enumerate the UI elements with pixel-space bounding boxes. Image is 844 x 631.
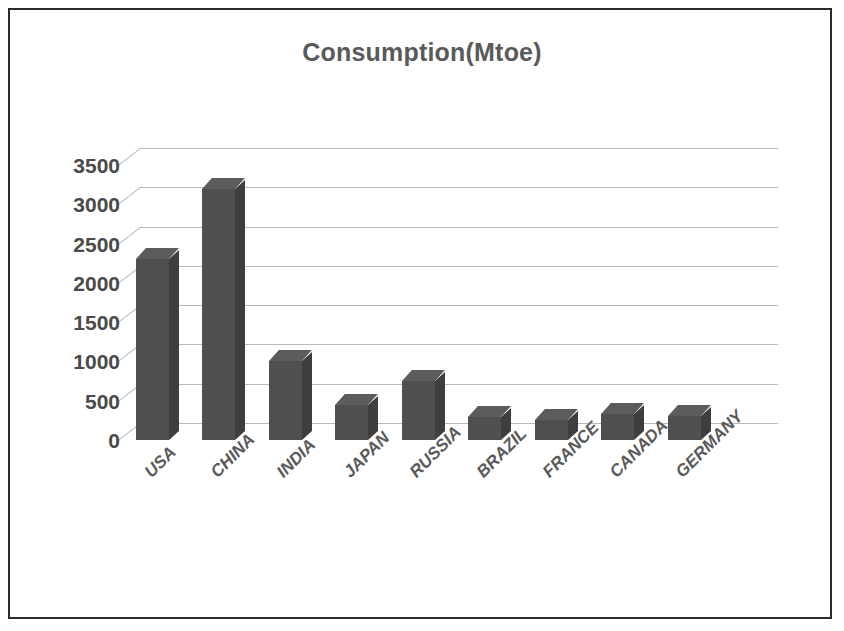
bar-front-face [601, 414, 634, 440]
chart-screenshot: Consumption(Mtoe) USACHINAINDIAJAPANRUSS… [0, 0, 844, 631]
bar-front-face [202, 189, 235, 440]
bar-canada [601, 414, 634, 440]
bar-front-face [335, 405, 368, 440]
y-axis-tick-label: 3000 [48, 194, 120, 215]
bar-france [535, 420, 568, 440]
depth-connector-3000 [118, 187, 141, 205]
bar-front-face [269, 361, 302, 440]
y-axis-tick-label: 1500 [48, 312, 120, 333]
bar-brazil [468, 417, 501, 440]
bar-germany [668, 416, 701, 440]
bar-side-face [302, 352, 312, 440]
bar-japan [335, 405, 368, 440]
bar-india [269, 361, 302, 440]
category-label-india: INDIA [273, 435, 320, 482]
depth-connector-3500 [118, 148, 141, 166]
y-axis-tick-group: 3500300025002000150010005000 [48, 0, 120, 631]
bar-side-face [169, 250, 179, 440]
plot-area: USACHINAINDIAJAPANRUSSIABRAZILFRANCECANA… [0, 0, 844, 631]
y-axis-tick-label: 500 [48, 391, 120, 412]
y-axis-tick-label: 2000 [48, 273, 120, 294]
y-axis-tick-label: 0 [48, 430, 120, 451]
y-axis-tick-label: 3500 [48, 155, 120, 176]
bar-front-face [668, 416, 701, 440]
gridline-3500 [140, 148, 778, 149]
bar-china [202, 189, 235, 440]
depth-connector-2500 [118, 227, 141, 245]
bar-russia [402, 381, 435, 440]
bar-usa [136, 259, 169, 440]
bar-front-face [468, 417, 501, 440]
bar-front-face [402, 381, 435, 440]
y-axis-tick-label: 2500 [48, 234, 120, 255]
bar-front-face [136, 259, 169, 440]
category-label-usa: USA [141, 443, 181, 483]
bar-side-face [235, 180, 245, 440]
y-axis-tick-label: 1000 [48, 351, 120, 372]
bar-front-face [535, 420, 568, 440]
